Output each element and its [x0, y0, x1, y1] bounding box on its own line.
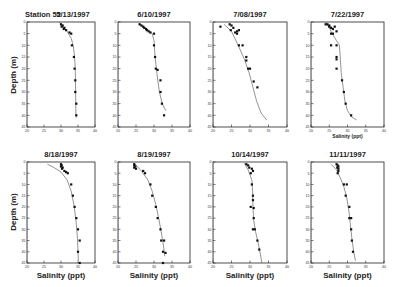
fit-curve — [326, 22, 357, 120]
y-tick-label: 0 — [115, 160, 117, 164]
x-tick-label: 35 — [76, 129, 80, 133]
data-point — [251, 183, 253, 185]
data-point — [75, 217, 77, 219]
fit-curve — [224, 24, 267, 120]
panel-title: 5/13/1997 — [56, 10, 89, 19]
x-tick-label: 30 — [248, 265, 252, 269]
plot-frame — [27, 162, 95, 263]
y-tick-label: 20 — [113, 205, 117, 209]
data-point — [159, 91, 161, 93]
data-point — [162, 251, 164, 253]
y-tick-label: 25 — [306, 79, 310, 83]
x-tick-label: 25 — [230, 265, 234, 269]
data-point — [230, 29, 232, 31]
data-point — [332, 28, 334, 30]
panel-title: 11/11/1997 — [329, 150, 366, 159]
x-tick-label: 35 — [170, 129, 174, 133]
x-tick-label: 40 — [93, 265, 97, 269]
station-label: Station 52 — [25, 10, 61, 19]
data-point — [250, 206, 252, 208]
y-tick-label: 20 — [208, 205, 212, 209]
y-axis-label-row2: Depth (m) — [9, 193, 18, 231]
data-point — [142, 170, 144, 172]
panel-3: 7/08/19970510152025303540452025303540 — [208, 10, 290, 133]
y-tick-label: 35 — [22, 239, 26, 243]
data-point — [67, 172, 69, 174]
data-point — [335, 58, 337, 60]
y-tick-label: 30 — [22, 90, 26, 94]
data-point — [159, 79, 161, 81]
y-tick-label: 30 — [208, 90, 212, 94]
data-point — [337, 168, 339, 170]
data-point — [74, 206, 76, 208]
y-tick-label: 35 — [22, 102, 26, 106]
y-tick-label: 20 — [113, 67, 117, 71]
data-point — [230, 24, 232, 26]
y-tick-label: 5 — [24, 172, 26, 176]
data-point — [71, 44, 73, 46]
panel-2: 6/10/19970510152025303540452025303540 — [113, 10, 193, 133]
data-point — [75, 114, 77, 116]
data-point — [153, 33, 155, 35]
data-point — [149, 183, 151, 185]
data-point — [256, 239, 258, 241]
y-tick-label: 25 — [113, 79, 117, 83]
data-point — [252, 199, 254, 201]
panel-title: 10/14/1997 — [231, 150, 269, 159]
data-point — [350, 114, 352, 116]
x-tick-label: 40 — [188, 265, 192, 269]
panel-8: 11/11/19970510152025303540452025303540Sa… — [306, 150, 387, 280]
data-point — [254, 228, 256, 230]
fit-curve — [139, 23, 166, 111]
y-tick-label: 15 — [306, 194, 310, 198]
x-axis-label: Salinity (ppt) — [332, 133, 363, 139]
y-tick-label: 5 — [210, 172, 212, 176]
y-tick-label: 0 — [308, 160, 310, 164]
y-tick-label: 0 — [115, 20, 117, 24]
x-tick-label: 40 — [93, 129, 97, 133]
plot-frame — [213, 22, 287, 127]
panel-title: 6/10/1997 — [137, 10, 170, 19]
x-tick-label: 20 — [25, 129, 29, 133]
data-point — [70, 33, 72, 35]
y-tick-label: 40 — [208, 114, 212, 118]
y-tick-label: 40 — [208, 250, 212, 254]
data-point — [63, 28, 65, 30]
data-point — [159, 228, 161, 230]
x-tick-label: 40 — [188, 129, 192, 133]
data-point — [236, 33, 238, 35]
x-tick-label: 25 — [42, 265, 46, 269]
panels: 5/13/1997Station 52051015202530354045202… — [22, 10, 387, 280]
y-tick-label: 10 — [22, 183, 26, 187]
y-tick-label: 10 — [113, 183, 117, 187]
x-tick-label: 35 — [267, 129, 271, 133]
y-tick-label: 35 — [306, 239, 310, 243]
y-tick-label: 15 — [22, 194, 26, 198]
data-point — [238, 44, 240, 46]
data-point — [343, 91, 345, 93]
x-tick-label: 30 — [59, 129, 63, 133]
x-tick-label: 35 — [364, 265, 368, 269]
data-point — [330, 44, 332, 46]
y-tick-label: 40 — [306, 250, 310, 254]
data-point — [332, 33, 334, 35]
y-tick-label: 40 — [22, 250, 26, 254]
data-point — [153, 44, 155, 46]
data-point — [247, 164, 249, 166]
y-tick-label: 5 — [210, 32, 212, 36]
y-tick-label: 5 — [308, 32, 310, 36]
y-tick-label: 5 — [24, 32, 26, 36]
data-point — [163, 114, 165, 116]
y-tick-label: 35 — [113, 102, 117, 106]
plot-frame — [213, 162, 287, 263]
data-point — [149, 31, 151, 33]
fit-curve — [59, 22, 76, 118]
y-tick-label: 35 — [208, 239, 212, 243]
x-tick-label: 20 — [25, 265, 29, 269]
data-point — [238, 29, 240, 31]
y-tick-label: 25 — [208, 79, 212, 83]
x-tick-label: 20 — [211, 265, 215, 269]
data-point — [61, 26, 63, 28]
x-tick-label: 20 — [211, 129, 215, 133]
x-tick-label: 40 — [382, 265, 386, 269]
